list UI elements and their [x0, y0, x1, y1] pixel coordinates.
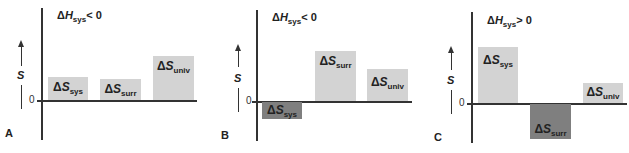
bar-delta-s-surr: ΔSsurr — [100, 79, 141, 100]
s-axis-arrow — [451, 52, 453, 70]
panel-letter: C — [434, 131, 442, 143]
panel-letter: A — [5, 127, 13, 139]
zero-label: 0 — [459, 97, 465, 108]
s-axis-tail — [21, 85, 23, 109]
bar-delta-s-univ: ΔSuniv — [583, 83, 623, 103]
bar-delta-s-sys: ΔSsys — [478, 47, 518, 103]
bar-delta-s-surr: ΔSsurr — [315, 51, 356, 101]
bar-delta-s-sys: ΔSsys — [48, 77, 88, 100]
s-axis-tail — [451, 90, 453, 114]
zero-label: 0 — [29, 94, 35, 105]
bar-delta-s-univ: ΔSuniv — [153, 56, 194, 100]
zero-label: 0 — [246, 95, 252, 106]
panel-c: S 0 ΔHsys> 0 ΔSsys ΔSsurr ΔSuniv C — [419, 0, 629, 153]
bar-delta-s-univ: ΔSuniv — [367, 69, 408, 101]
panel-a: S 0 ΔHsys< 0 ΔSsys ΔSsurr ΔSuniv A — [0, 0, 210, 153]
panel-letter: B — [221, 129, 229, 141]
vertical-axis — [471, 12, 473, 143]
s-axis-label: S — [234, 72, 241, 84]
s-axis-label: S — [17, 69, 24, 81]
s-axis-arrow — [238, 50, 240, 67]
enthalpy-condition: ΔHsys< 0 — [57, 9, 102, 24]
s-axis-tail — [238, 88, 240, 112]
vertical-axis — [41, 8, 43, 140]
vertical-axis — [256, 10, 258, 141]
panel-b: S 0 ΔHsys< 0 ΔSsys ΔSsurr ΔSuniv B — [210, 0, 420, 153]
enthalpy-condition: ΔHsys< 0 — [272, 11, 317, 26]
bar-delta-s-sys: ΔSsys — [262, 102, 302, 119]
s-axis-arrow — [21, 46, 23, 66]
zero-line — [37, 100, 197, 102]
s-axis-label: S — [447, 74, 454, 86]
enthalpy-condition: ΔHsys> 0 — [487, 14, 532, 29]
bar-delta-s-surr: ΔSsurr — [530, 104, 571, 139]
